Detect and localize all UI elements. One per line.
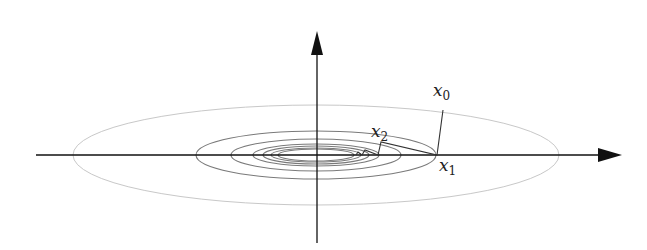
- label-x1: x1: [439, 155, 456, 178]
- label-x0-base: x: [433, 80, 443, 100]
- x-axis-arrowhead-icon: [598, 148, 622, 162]
- descent-path: [356, 110, 443, 155]
- label-x1-base: x: [439, 155, 449, 175]
- y-axis-arrowhead-icon: [311, 31, 323, 55]
- gradient-descent-contour-diagram: x0 x2 x1: [0, 0, 647, 250]
- label-x2-base: x: [371, 121, 381, 141]
- label-x0: x0: [433, 80, 450, 103]
- coordinate-axes: [36, 31, 622, 243]
- label-x1-subscript: 1: [449, 164, 457, 178]
- label-x2-subscript: 2: [381, 130, 389, 144]
- label-x2: x2: [371, 121, 388, 144]
- label-x0-subscript: 0: [443, 89, 451, 103]
